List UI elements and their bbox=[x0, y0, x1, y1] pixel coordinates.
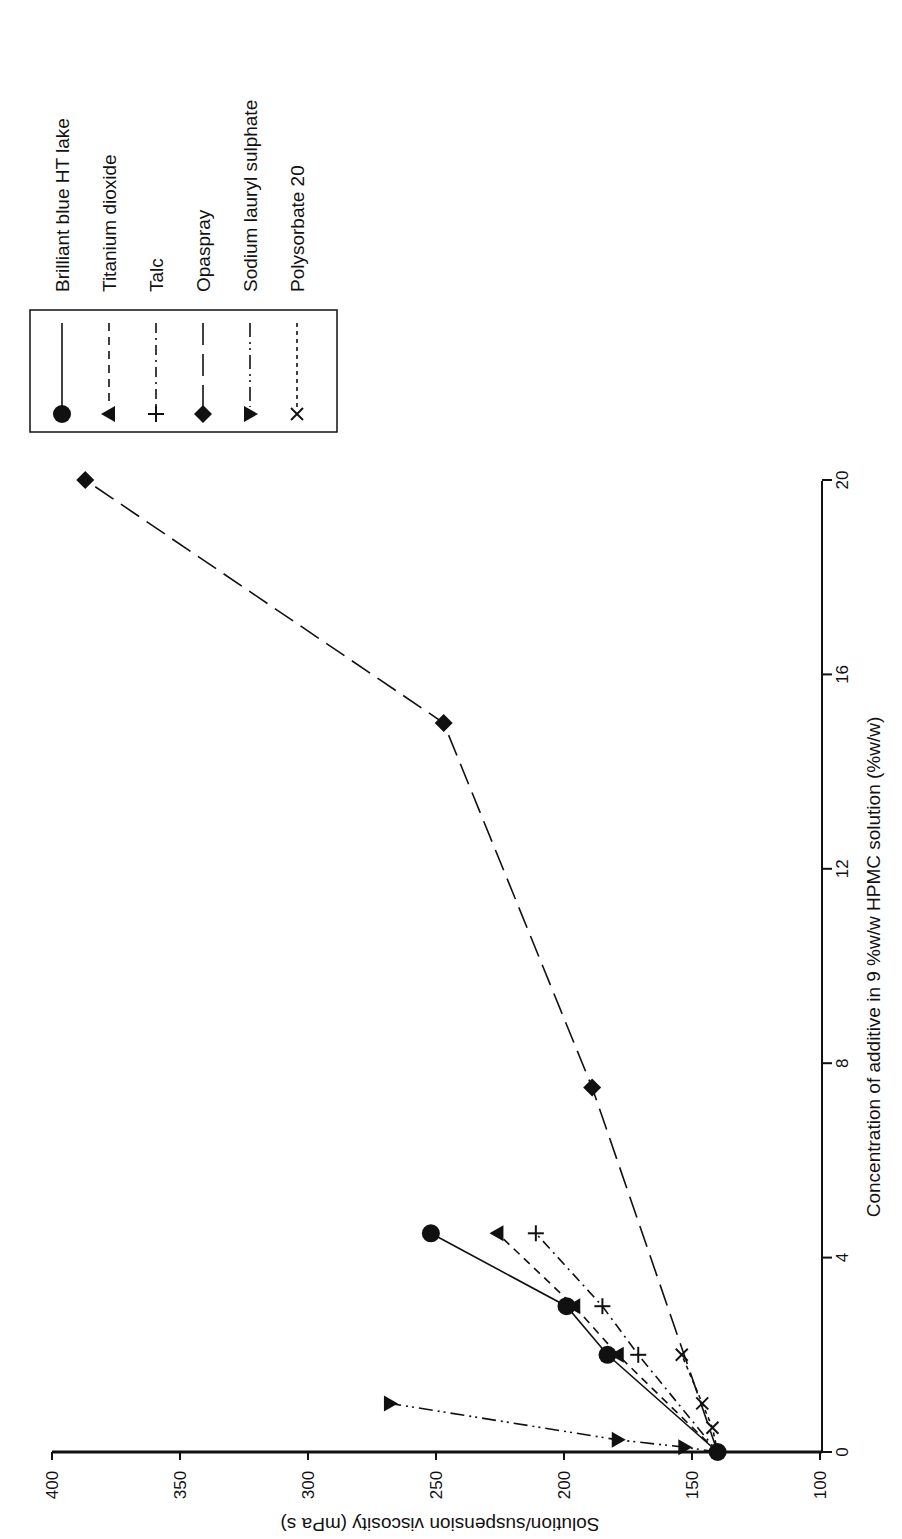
value-axis-title: Solution/suspension viscosity (mPa s) bbox=[281, 1514, 600, 1535]
legend-label: Brilliant blue HT lake bbox=[52, 118, 73, 292]
value-tick-label: 400 bbox=[43, 1471, 62, 1499]
concentration-axis-title: Concentration of additive in 9 %w/w HPMC… bbox=[863, 717, 884, 1218]
legend-label: Opaspray bbox=[193, 209, 214, 292]
series-talc bbox=[528, 1225, 718, 1452]
concentration-axis: 048121620 bbox=[822, 471, 852, 1457]
value-axis: 100150200250300350400 bbox=[43, 1452, 830, 1499]
concentration-tick-label: 8 bbox=[833, 1058, 852, 1067]
series-titanium-dioxide bbox=[489, 1225, 717, 1452]
concentration-tick-label: 0 bbox=[833, 1447, 852, 1456]
series-opaspray bbox=[76, 471, 717, 1452]
legend-label: Talc bbox=[146, 258, 167, 292]
value-tick-label: 300 bbox=[299, 1471, 318, 1499]
series-brilliant-blue-ht-lake bbox=[422, 1224, 727, 1461]
legend-label: Sodium lauryl sulphate bbox=[240, 100, 261, 292]
series-group bbox=[76, 471, 726, 1461]
legend bbox=[30, 310, 337, 432]
value-tick-label: 250 bbox=[427, 1471, 446, 1499]
viscosity-chart: 100150200250300350400 048121620 Concentr… bbox=[0, 0, 902, 1539]
value-tick-label: 100 bbox=[811, 1471, 830, 1499]
concentration-tick-label: 12 bbox=[833, 859, 852, 878]
legend-label: Polysorbate 20 bbox=[287, 165, 308, 292]
concentration-tick-label: 20 bbox=[833, 471, 852, 490]
value-tick-label: 350 bbox=[171, 1471, 190, 1499]
concentration-tick-label: 4 bbox=[833, 1253, 852, 1262]
value-tick-label: 200 bbox=[555, 1471, 574, 1499]
series-sodium-lauryl-sulphate bbox=[384, 1395, 718, 1455]
value-tick-label: 150 bbox=[683, 1471, 702, 1499]
concentration-tick-label: 16 bbox=[833, 665, 852, 684]
legend-label: Titanium dioxide bbox=[99, 154, 120, 292]
